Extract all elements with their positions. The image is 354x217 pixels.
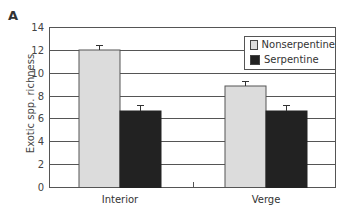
legend-item-serpentine: Serpentine xyxy=(245,52,335,67)
bar-interior-nonserpentine xyxy=(79,50,120,188)
svg-text:0: 0 xyxy=(38,182,44,193)
svg-text:12: 12 xyxy=(31,45,44,56)
bar-verge-nonserpentine xyxy=(225,86,266,188)
legend-item-nonserpentine: Nonserpentine xyxy=(245,37,335,52)
x-label-verge: Verge xyxy=(252,194,281,205)
svg-text:10: 10 xyxy=(31,68,44,79)
bar-verge-serpentine xyxy=(266,111,307,188)
y-tick-labels: 0 2 4 6 8 10 12 14 xyxy=(31,22,44,193)
svg-text:8: 8 xyxy=(38,91,44,102)
svg-text:4: 4 xyxy=(38,136,44,147)
svg-text:2: 2 xyxy=(38,159,44,170)
svg-text:6: 6 xyxy=(38,113,44,124)
svg-text:14: 14 xyxy=(31,22,44,33)
x-label-interior: Interior xyxy=(102,194,139,205)
legend: Nonserpentine Serpentine xyxy=(244,36,336,70)
bar-interior-serpentine xyxy=(120,111,161,188)
bar-chart: 0 2 4 6 8 10 12 14 Interior Verge xyxy=(0,0,354,217)
nonserpentine-swatch-icon xyxy=(250,40,258,50)
serpentine-swatch-icon xyxy=(250,55,260,65)
